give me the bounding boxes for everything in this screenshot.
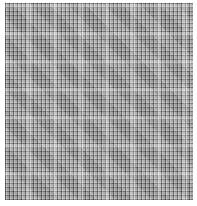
image-description: Grayscale distorted woven grid / mesh te…	[0, 0, 1, 1]
mesh-texture	[5, 3, 193, 200]
texture-block-pattern	[5, 3, 193, 200]
